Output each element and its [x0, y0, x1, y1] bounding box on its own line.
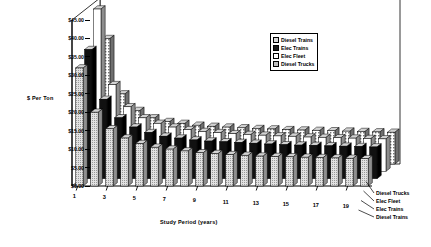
- depth-axis-label: Elec Fleet: [376, 197, 400, 205]
- x-axis-tick-label: 17: [313, 202, 319, 208]
- x-axis-tick-label: 13: [253, 200, 259, 206]
- legend-item-label: Elec Fleet: [281, 52, 305, 60]
- y-axis-title: $ Per Ton: [27, 95, 53, 101]
- x-axis-tick-label: 1: [73, 193, 76, 199]
- x-axis-tick-label: 19: [343, 203, 349, 209]
- legend-swatch-icon: [273, 45, 279, 51]
- depth-axis-label: Diesel Trucks: [376, 189, 409, 197]
- depth-axis-item: Elec Trains: [376, 205, 409, 213]
- x-axis-tick-label: 9: [193, 197, 196, 203]
- legend-swatch-icon: [273, 61, 279, 67]
- x-axis-tick-label: 3: [103, 194, 106, 200]
- depth-axis-label: Elec Trains: [376, 205, 403, 213]
- x-axis-tick-label: 5: [133, 195, 136, 201]
- depth-axis-item: Diesel Trains: [376, 213, 409, 221]
- legend-item-label: Diesel Trucks: [281, 60, 314, 68]
- legend-swatch-icon: [273, 37, 279, 43]
- depth-axis-item: Diesel Trucks: [376, 189, 409, 197]
- legend-item[interactable]: Diesel Trains: [273, 36, 314, 44]
- x-axis-ticks: 135791113151719: [0, 0, 431, 247]
- legend-item[interactable]: Elec Trains: [273, 44, 314, 52]
- legend-item-label: Diesel Trains: [281, 36, 313, 44]
- legend-swatch-icon: [273, 53, 279, 59]
- depth-axis-labels: Diesel TrucksElec FleetElec TrainsDiesel…: [376, 189, 409, 221]
- x-axis-tick-label: 7: [163, 196, 166, 202]
- x-axis-title: Study Period (years): [160, 219, 218, 225]
- chart-container: $45.00$40.00$35.00$30.00$25.00$20.00$15.…: [0, 0, 431, 247]
- legend-item[interactable]: Elec Fleet: [273, 52, 314, 60]
- depth-axis-label: Diesel Trains: [376, 213, 408, 221]
- legend-item[interactable]: Diesel Trucks: [273, 60, 314, 68]
- chart-legend: Diesel TrainsElec TrainsElec FleetDiesel…: [270, 33, 318, 71]
- depth-axis-item: Elec Fleet: [376, 197, 409, 205]
- x-axis-tick-label: 15: [283, 201, 289, 207]
- legend-item-label: Elec Trains: [281, 44, 308, 52]
- x-axis-tick-label: 11: [223, 199, 229, 205]
